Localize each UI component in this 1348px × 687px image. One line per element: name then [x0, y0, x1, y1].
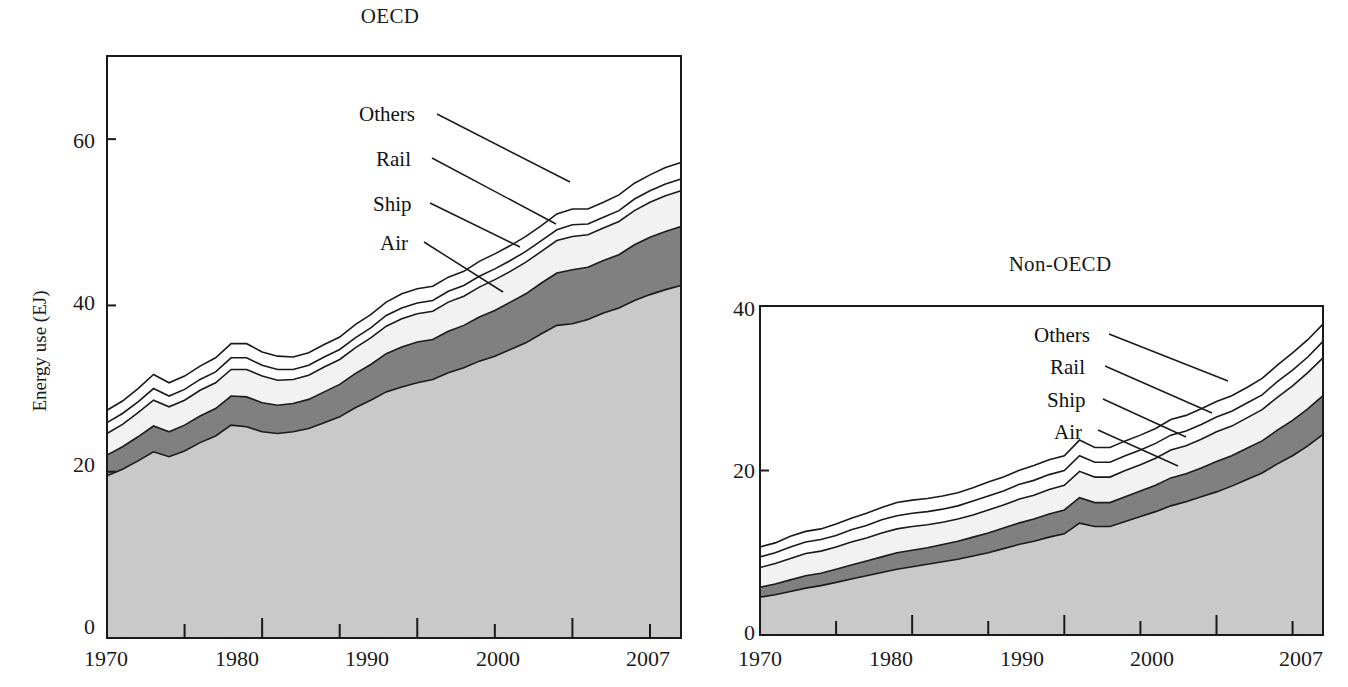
figure-root: OECD Energy use (EJ) 60 40 20 0 1970 198… — [0, 0, 1348, 687]
leader-line — [430, 203, 520, 247]
plot-area-oecd — [0, 0, 700, 687]
plot-area-non-oecd — [700, 0, 1348, 687]
panel-oecd: OECD Energy use (EJ) 60 40 20 0 1970 198… — [0, 0, 700, 687]
leader-line — [1109, 334, 1228, 381]
leader-line — [1105, 366, 1212, 413]
panel-non-oecd: Non-OECD 40 20 0 1970 1980 1990 2000 200… — [700, 0, 1348, 687]
leader-line — [432, 158, 556, 224]
